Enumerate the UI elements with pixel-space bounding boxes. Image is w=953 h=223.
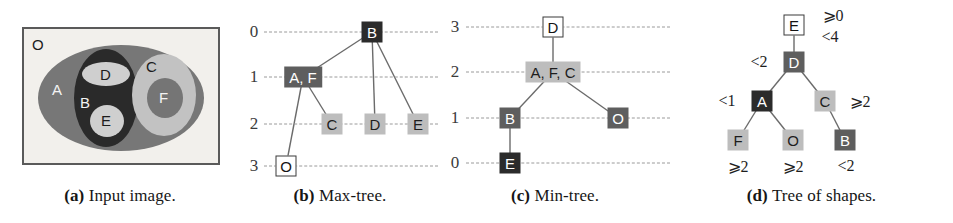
gridline-level-0 — [264, 32, 438, 33]
region-label-F: F — [159, 90, 168, 105]
tree-node-C[interactable]: C — [322, 114, 343, 135]
panel-input-image: O A B C D E F (a) Input image. — [0, 0, 240, 223]
panel-d-caption-tag: (d) — [747, 186, 768, 205]
threshold-annotation-E-upper: ⩾0 — [823, 6, 844, 25]
axis-tick-3: 3 — [451, 17, 460, 37]
tree-node-E[interactable]: E — [500, 153, 521, 174]
input-image-frame: O A B C D E F — [22, 27, 220, 165]
tree-edge-B-D — [372, 32, 375, 124]
region-label-C: C — [146, 59, 157, 74]
tree-node-O[interactable]: O — [783, 130, 804, 151]
tree-of-shapes-edges — [670, 0, 953, 185]
panel-b-caption-tag: (b) — [294, 186, 315, 205]
tree-node-AF[interactable]: A, F — [284, 67, 322, 88]
threshold-annotation-A-side: <1 — [718, 92, 735, 110]
panel-b-caption: (b) Max-tree. — [240, 186, 440, 206]
axis-tick-1: 1 — [451, 108, 460, 128]
tree-node-O[interactable]: O — [276, 156, 297, 177]
tree-node-F[interactable]: F — [728, 130, 749, 151]
tree-edge-B-E — [372, 32, 418, 124]
region-label-O: O — [32, 37, 44, 52]
panel-d-caption: (d) Tree of shapes. — [670, 186, 953, 206]
tree-node-B[interactable]: B — [500, 108, 521, 129]
threshold-annotation-C-side: ⩾2 — [850, 92, 871, 111]
region-label-E: E — [101, 113, 111, 128]
tree-node-B[interactable]: B — [362, 22, 383, 43]
panel-c-caption: (c) Min-tree. — [440, 186, 670, 206]
axis-tick-2: 2 — [451, 62, 460, 82]
panel-a-caption-tag: (a) — [64, 186, 84, 205]
axis-tick-2: 2 — [250, 114, 259, 134]
tree-node-D[interactable]: D — [365, 114, 386, 135]
panel-max-tree: 0123 BA, FCDEO (b) Max-tree. — [240, 0, 440, 223]
threshold-annotation-F-below: ⩾2 — [728, 157, 749, 176]
panel-c-body: 3210 DA, F, CBOE — [440, 0, 670, 185]
panel-a-caption: (a) Input image. — [0, 186, 240, 206]
panel-tree-of-shapes: EDACFOB ⩾0<4<2<1⩾2⩾2⩾2<2 (d) Tree of sha… — [670, 0, 953, 223]
gridline-level-1 — [466, 118, 670, 119]
panel-a-body: O A B C D E F — [0, 0, 240, 185]
region-label-A: A — [52, 82, 62, 97]
tree-node-D[interactable]: D — [543, 17, 564, 38]
region-label-D: D — [100, 67, 111, 82]
threshold-annotation-O-below: ⩾2 — [783, 157, 804, 176]
threshold-annotation-D-side: <2 — [750, 53, 767, 71]
panel-min-tree: 3210 DA, F, CBOE (c) Min-tree. — [440, 0, 670, 223]
axis-tick-0: 0 — [250, 22, 259, 42]
panel-c-caption-tag: (c) — [511, 186, 530, 205]
region-label-B: B — [80, 95, 90, 110]
threshold-annotation-B-below: <2 — [837, 157, 854, 175]
tree-node-B[interactable]: B — [835, 130, 856, 151]
axis-tick-3: 3 — [250, 156, 259, 176]
panel-b-caption-text: Max-tree. — [319, 186, 386, 205]
panel-b-body: 0123 BA, FCDEO — [240, 0, 440, 185]
panel-a-caption-text: Input image. — [89, 186, 176, 205]
panel-d-caption-text: Tree of shapes. — [772, 186, 876, 205]
tree-node-E[interactable]: E — [784, 15, 805, 36]
figure-tree-representations: O A B C D E F (a) Input image. 0123 BA, … — [0, 0, 953, 223]
axis-tick-1: 1 — [250, 67, 259, 87]
tree-node-O[interactable]: O — [608, 108, 629, 129]
tree-node-AFC[interactable]: A, F, C — [525, 62, 580, 83]
gridline-level-3 — [466, 27, 670, 28]
tree-node-E[interactable]: E — [408, 114, 429, 135]
panel-d-body: EDACFOB ⩾0<4<2<1⩾2⩾2⩾2<2 — [670, 0, 953, 185]
axis-tick-0: 0 — [451, 153, 460, 173]
tree-edge-AF-O — [286, 77, 303, 166]
max-tree-edges — [240, 0, 440, 185]
panel-c-caption-text: Min-tree. — [534, 186, 599, 205]
tree-node-C[interactable]: C — [815, 91, 836, 112]
tree-node-D[interactable]: D — [784, 52, 805, 73]
tree-node-A[interactable]: A — [752, 91, 773, 112]
threshold-annotation-E-lower: <4 — [821, 28, 838, 46]
gridline-level-0 — [466, 163, 670, 164]
